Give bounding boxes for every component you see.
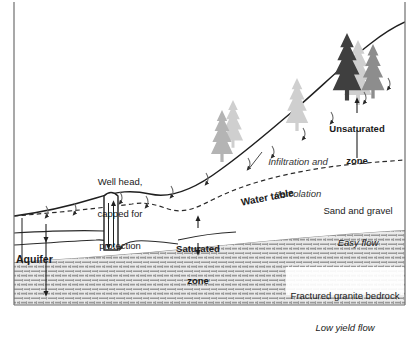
- saturated-zone-line2: zone: [162, 276, 234, 287]
- bedrock-line1: Fractured granite bedrock: [286, 291, 404, 302]
- saturated-zone-label: Saturated zone: [162, 223, 234, 308]
- aquifer-label: Aquifer: [16, 254, 53, 266]
- bedrock-label: Fractured granite bedrock Low yield flow: [286, 270, 404, 337]
- well-head-line2: capped for: [82, 209, 158, 220]
- infiltration-line1: Infiltration and: [252, 157, 344, 168]
- well-head-line3: protection: [82, 241, 158, 252]
- well-head-label: Well head, capped for protection: [82, 156, 158, 273]
- unsaturated-zone-line1: Unsaturated: [320, 124, 394, 135]
- sand-gravel-line2: Easy flow: [312, 238, 404, 249]
- saturated-zone-line1: Saturated: [162, 244, 234, 255]
- bedrock-line2: Low yield flow: [286, 323, 404, 334]
- well-head-line1: Well head,: [82, 177, 158, 188]
- sand-gravel-line1: Sand and gravel: [312, 206, 404, 217]
- sand-gravel-label: Sand and gravel Easy flow: [312, 185, 404, 270]
